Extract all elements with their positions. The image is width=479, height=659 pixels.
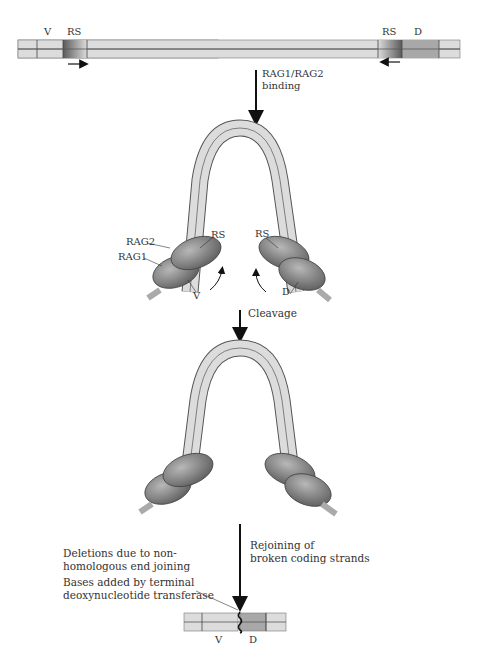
label-cleavage: Cleavage	[248, 307, 297, 319]
label-rag2: RAG2	[126, 236, 155, 248]
note-bases-2: deoxynucleotide transferase	[63, 589, 214, 601]
label-v-hairpin: V	[193, 290, 200, 302]
label-d-top: D	[414, 26, 422, 38]
label-rs-left: RS	[211, 229, 225, 241]
label-rs-top-right: RS	[382, 26, 396, 38]
label-rag-binding-1: RAG1/RAG2	[262, 68, 324, 80]
label-v-top: V	[44, 26, 51, 38]
note-deletions-2: homologous end joining	[63, 560, 190, 572]
label-d-bottom: D	[249, 634, 257, 646]
label-rs-right: RS	[255, 228, 269, 240]
note-bases-1: Bases added by terminal	[63, 576, 194, 588]
top-dna-strand	[18, 40, 460, 64]
label-rejoining-2: broken coding strands	[250, 552, 370, 564]
note-deletions-1: Deletions due to non-	[63, 547, 177, 559]
hairpin-bound	[144, 128, 330, 300]
label-rejoining-1: Rejoining of	[250, 539, 314, 551]
label-d-hairpin: D	[282, 286, 290, 298]
label-rs-top-left: RS	[67, 26, 81, 38]
label-v-bottom: V	[215, 634, 222, 646]
label-rag1: RAG1	[118, 251, 147, 263]
bottom-dna-strand	[184, 612, 286, 633]
hairpin-cleaved	[140, 348, 336, 514]
label-rag-binding-2: binding	[262, 80, 300, 92]
